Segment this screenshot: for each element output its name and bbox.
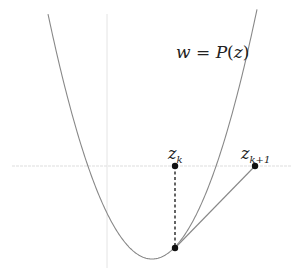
curve-label-arg: z [234, 42, 243, 62]
curve-label-close: ) [243, 42, 250, 62]
point-on-curve [172, 245, 178, 251]
tangent-line [175, 166, 255, 248]
curve-label-eq: = [191, 42, 216, 62]
curve-label-open: ( [227, 42, 234, 62]
label-z-k: zk [168, 144, 183, 165]
label-z-k-plus-1-sub: k+1 [249, 154, 270, 165]
curve-label-func: P [216, 42, 227, 62]
curve-label-var: w [176, 42, 191, 62]
plot-canvas [0, 0, 304, 276]
curve-label: w = P(z) [176, 42, 249, 62]
label-z-k-sub: k [176, 154, 182, 165]
label-z-k-plus-1: zk+1 [241, 144, 270, 165]
newton-method-diagram: w = P(z) zk zk+1 [0, 0, 304, 276]
